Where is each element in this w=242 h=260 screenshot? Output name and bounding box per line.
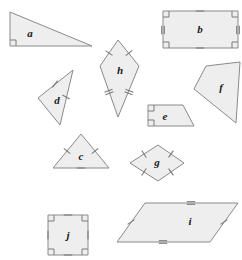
shape-i[interactable]: i [117,202,238,244]
shape-outline-a[interactable] [10,12,92,46]
shape-b[interactable]: b [162,11,240,48]
shape-a[interactable]: a [10,12,92,46]
shape-d[interactable]: d [38,70,73,125]
shape-h[interactable]: h [100,40,139,117]
shape-label-g: g [153,156,160,168]
shape-label-d: d [54,94,60,106]
shape-outline-i[interactable] [117,203,238,242]
shape-e[interactable]: e [148,105,194,126]
geometry-figure-svg: abcdefghij [0,0,242,260]
shape-f[interactable]: f [194,62,240,123]
shape-label-b: b [197,23,203,35]
shape-outline-f[interactable] [194,62,240,123]
shape-c[interactable]: c [53,134,109,168]
shape-label-a: a [27,27,33,39]
shape-outline-e[interactable] [148,105,194,126]
shape-j[interactable]: j [48,215,88,255]
shape-g[interactable]: g [130,145,184,181]
shape-label-e: e [163,110,168,122]
shape-label-c: c [79,150,84,162]
shape-outline-h[interactable] [100,40,139,117]
shape-label-h: h [117,64,123,76]
geometry-figure-canvas: abcdefghij [0,0,242,260]
